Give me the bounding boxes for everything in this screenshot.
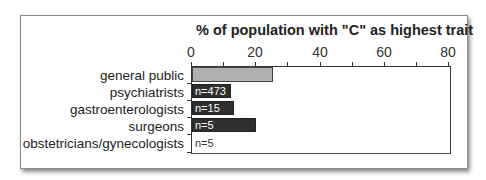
x-tick-label: 20 [247, 44, 263, 60]
x-tick-label: 80 [440, 44, 456, 60]
category-label: general public [100, 68, 184, 83]
bar-general-public [192, 67, 273, 82]
x-tick-label: 0 [187, 44, 195, 60]
sample-size-label: n=5 [195, 119, 214, 131]
y-tick [187, 100, 191, 101]
x-tick-label: 60 [376, 44, 392, 60]
category-label: gastroenterologists [70, 102, 184, 117]
category-label: surgeons [128, 119, 184, 134]
y-tick [187, 152, 191, 153]
sample-size-label: n=15 [195, 102, 220, 114]
y-tick [187, 117, 191, 118]
y-tick [187, 83, 191, 84]
y-tick [187, 134, 191, 135]
sample-size-label: n=5 [195, 137, 214, 149]
chart-title: % of population with "C" as highest trai… [196, 22, 473, 38]
x-tick-label: 40 [312, 44, 328, 60]
sample-size-label: n=473 [195, 85, 226, 97]
category-label: psychiatrists [110, 85, 184, 100]
category-label: obstetricians/gynecologists [23, 136, 184, 151]
